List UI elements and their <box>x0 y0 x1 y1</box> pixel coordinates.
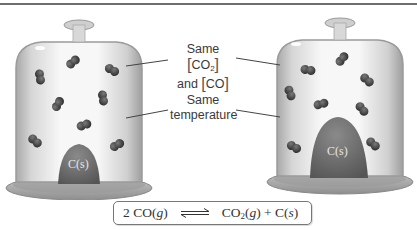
equilibrium-equation: 2 CO(g) CO2(g) + C(s) <box>113 201 312 225</box>
temperature-callout: Same temperature <box>170 93 236 123</box>
equation-reactant: 2 CO(g) <box>123 205 168 221</box>
left-solid-label: C(s) <box>68 157 89 172</box>
concentration-callout: Same [CO2] and [CO] <box>170 42 236 92</box>
leader-line-temp-right <box>236 110 280 117</box>
right-solid-label: C(s) <box>327 144 348 159</box>
concentration-line1: Same [CO2] <box>170 42 236 76</box>
equilibrium-arrow-icon <box>180 208 210 218</box>
left-bell-jar <box>6 20 152 200</box>
right-bell-jar <box>267 18 413 194</box>
equation-products: CO2(g) + C(s) <box>222 205 299 221</box>
leader-line-conc-right <box>236 58 280 65</box>
concentration-line2: and [CO] <box>170 76 236 92</box>
